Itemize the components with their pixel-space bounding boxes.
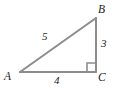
right-angle-marker-icon (87, 63, 96, 72)
vertex-label-b: B (98, 4, 105, 15)
side-label-vertical: 3 (101, 38, 107, 49)
vertex-label-c: C (98, 72, 106, 83)
side-label-hypotenuse: 5 (42, 31, 48, 42)
side-hypotenuse-line (20, 18, 96, 72)
side-label-base: 4 (54, 75, 60, 86)
vertex-label-a: A (4, 71, 11, 82)
figure-canvas: A B C 5 3 4 (0, 0, 116, 94)
